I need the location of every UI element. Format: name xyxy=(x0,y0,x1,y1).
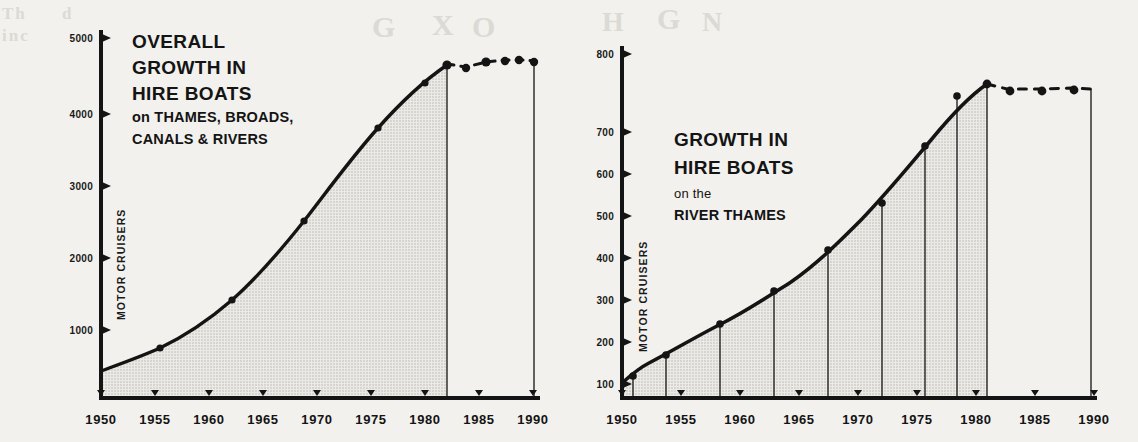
y-tick-label: 4000 xyxy=(70,109,94,120)
x-tick-label: 1955 xyxy=(139,412,170,427)
y-tick-label: 5000 xyxy=(70,33,94,44)
y-tick-label: 100 xyxy=(596,379,614,390)
x-tick-label: 1980 xyxy=(409,412,440,427)
y-tick-label: 300 xyxy=(596,295,614,306)
x-tick-label: 1975 xyxy=(901,412,932,427)
y-tick-label: 800 xyxy=(596,49,614,60)
y-tick-label: 600 xyxy=(596,169,614,180)
x-tick-label: 1970 xyxy=(301,412,332,427)
chart-title-line: HIRE BOATS xyxy=(132,83,252,104)
chart-subtitle-line: CANALS & RIVERS xyxy=(132,131,268,147)
chart-thames-growth-svg: 100 200 300 400 500 600 700 800 1950 195… xyxy=(569,0,1138,442)
x-tick-label: 1950 xyxy=(85,412,116,427)
x-tick-label: 1975 xyxy=(355,412,386,427)
y-tick-label: 2000 xyxy=(70,253,94,264)
x-tick-label: 1960 xyxy=(724,412,755,427)
x-tick-label: 1990 xyxy=(1078,412,1109,427)
y-axis-title: MOTOR CRUISERS xyxy=(637,241,649,352)
y-tick-label: 400 xyxy=(596,253,614,264)
chart-title-line: OVERALL xyxy=(132,31,226,52)
x-tick-label: 1985 xyxy=(1019,412,1050,427)
y-ticks xyxy=(623,50,632,388)
data-points-projected xyxy=(462,56,538,72)
y-tick-label: 1000 xyxy=(70,325,94,336)
y-tick-label: 3000 xyxy=(70,181,94,192)
chart-overall-growth-svg: 1000 2000 3000 4000 5000 1950 1955 1960 … xyxy=(0,0,569,442)
x-tick-label: 1965 xyxy=(247,412,278,427)
chart-title-line: GROWTH IN xyxy=(674,129,788,150)
x-tick-label: 1990 xyxy=(517,412,548,427)
y-tick-label: 700 xyxy=(596,127,614,138)
chart-title-line: GROWTH IN xyxy=(132,57,246,78)
y-tick-label: 500 xyxy=(596,211,614,222)
x-tick-label: 1960 xyxy=(193,412,224,427)
x-tick-label: 1970 xyxy=(842,412,873,427)
x-tick-label: 1965 xyxy=(783,412,814,427)
chart-subtitle-line: RIVER THAMES xyxy=(674,207,786,223)
chart-overall-growth: 1000 2000 3000 4000 5000 1950 1955 1960 … xyxy=(0,0,569,442)
y-axis-title: MOTOR CRUISERS xyxy=(115,209,127,320)
chart-title-line: HIRE BOATS xyxy=(674,157,794,178)
y-ticks xyxy=(102,34,111,334)
x-tick-label: 1980 xyxy=(960,412,991,427)
chart-subtitle-line: on THAMES, BROADS, xyxy=(132,109,294,125)
chart-thames-growth: 100 200 300 400 500 600 700 800 1950 195… xyxy=(569,0,1138,442)
x-tick-label: 1955 xyxy=(665,412,696,427)
chart-page: Th inc d G X O H G N xyxy=(0,0,1138,442)
chart-subtitle-line: on the xyxy=(674,186,711,201)
x-tick-label: 1985 xyxy=(463,412,494,427)
x-tick-label: 1950 xyxy=(606,412,637,427)
y-tick-label: 200 xyxy=(596,337,614,348)
